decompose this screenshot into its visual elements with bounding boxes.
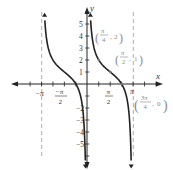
point-pi-4: [98, 59, 101, 62]
svg-text:2: 2: [114, 33, 118, 41]
svg-text:,: ,: [129, 55, 131, 63]
tick-label-y-neg5: −5: [76, 140, 84, 149]
tick-label-neg-pi-half-den: 2: [59, 98, 63, 106]
x-axis-left-arrow-icon: [11, 82, 18, 87]
curve-arrow-icon: [42, 13, 47, 17]
svg-text:(: (: [115, 53, 119, 67]
svg-text:3π: 3π: [140, 94, 148, 101]
svg-text:(: (: [95, 31, 99, 45]
tick-label-pi-half-den: 2: [107, 98, 111, 106]
tick-label-pi-half-num: π: [107, 88, 111, 96]
svg-text:1: 1: [134, 55, 138, 63]
point-3pi-4: [121, 83, 124, 86]
annotation-pi-4-2: ( π 4 , 2 ): [95, 27, 123, 45]
chart-container: y x −π −π 2 π 2 π 5 4 3 2 1 −2 −3 −4 −5 …: [0, 0, 173, 170]
svg-text:,: ,: [110, 33, 112, 41]
tick-label-y-neg3: −3: [76, 116, 84, 125]
x-axis-label: x: [155, 71, 160, 81]
tick-label-neg-pi: −π: [35, 89, 44, 98]
svg-text:): ): [163, 98, 168, 114]
tick-label-y-4: 4: [79, 32, 83, 41]
svg-text:4: 4: [144, 103, 148, 110]
x-axis-right-arrow-icon: [156, 82, 163, 87]
tick-label-y-3: 3: [79, 44, 83, 53]
curve-arrow-icon: [129, 164, 134, 168]
svg-text:0: 0: [157, 100, 161, 108]
tick-label-y-5: 5: [79, 20, 83, 29]
y-axis-up-arrow-icon: [85, 7, 90, 14]
y-axis-label: y: [89, 3, 94, 13]
annotation-3pi-4-0: ( 3π 4 , 0 ): [134, 94, 168, 114]
function-plot: y x −π −π 2 π 2 π 5 4 3 2 1 −2 −3 −4 −5 …: [0, 0, 173, 170]
tick-label-pi: π: [130, 87, 134, 96]
tick-label-y-1: 1: [79, 68, 83, 77]
svg-text:π: π: [121, 49, 125, 56]
tick-label-y-neg2: −2: [76, 104, 84, 113]
svg-text:,: ,: [152, 100, 154, 108]
tick-label-y-neg4: −4: [76, 128, 84, 137]
tick-label-neg-pi-half-num: −π: [55, 88, 64, 96]
point-pi-2: [109, 71, 112, 74]
svg-text:): ): [119, 31, 123, 45]
svg-text:2: 2: [122, 58, 125, 65]
tick-label-y-2: 2: [79, 56, 83, 65]
svg-text:4: 4: [102, 36, 106, 43]
svg-text:): ): [139, 53, 143, 67]
svg-text:(: (: [134, 98, 139, 114]
svg-text:π: π: [101, 27, 105, 34]
annotation-pi-2-1: ( π 2 , 1 ): [115, 49, 143, 67]
